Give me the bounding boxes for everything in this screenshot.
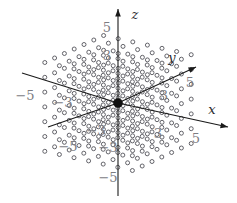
lattice-dot (97, 75, 101, 79)
lattice-dot (121, 133, 125, 137)
lattice-dot (77, 55, 81, 59)
lattice-dot (53, 56, 57, 60)
lattice-dot (62, 52, 66, 56)
lattice-dot (145, 63, 149, 67)
figure-canvas: x35−3−5y35−5−3z53−3−5 (0, 0, 237, 203)
lattice-dot (82, 72, 86, 76)
lattice-dot (170, 136, 174, 140)
lattice-dot (97, 105, 101, 109)
lattice-dot (57, 64, 61, 68)
lattice-dot (87, 115, 91, 119)
lattice-dot (67, 74, 71, 78)
lattice-dot (160, 46, 164, 50)
lattice-dot (87, 95, 91, 99)
lattice-dot (160, 61, 164, 65)
tick-label-y-3: 3 (160, 88, 168, 103)
lattice-dot (150, 71, 154, 75)
lattice-dot (126, 141, 130, 145)
lattice-dot (131, 129, 135, 133)
lattice-dot (102, 78, 106, 82)
lattice-dot (135, 82, 139, 86)
lattice-dot (155, 147, 159, 151)
lattice-dot (170, 106, 174, 110)
lattice-dot (101, 73, 105, 77)
lattice-dot (179, 102, 183, 106)
lattice-dot (82, 136, 86, 140)
lattice-dot (87, 50, 91, 54)
lattice-dot (77, 84, 81, 88)
lattice-dot (72, 126, 76, 130)
lattice-dot (121, 109, 125, 113)
lattice-dot (87, 144, 91, 148)
lattice-dot (155, 103, 159, 107)
lattice-dot (121, 153, 125, 157)
lattice-dot (92, 73, 96, 77)
lattice-dot (111, 49, 115, 53)
lattice-dot (126, 126, 130, 130)
lattice-dot (130, 80, 134, 84)
lattice-dot (111, 69, 115, 73)
tick-label-y-5: 5 (186, 75, 194, 90)
lattice-dot (155, 118, 159, 122)
lattice-dot (43, 90, 47, 94)
lattice-dot (53, 130, 57, 134)
lattice-dot (87, 80, 91, 84)
lattice-dot (77, 70, 81, 74)
lattice-dot (96, 66, 100, 70)
lattice-dot (189, 53, 193, 57)
lattice-dot (175, 109, 179, 113)
lattice-dot (131, 134, 135, 138)
tick-label-z-negative--3: −3 (98, 140, 117, 155)
lattice-dot (145, 93, 149, 97)
lattice-dot (189, 97, 193, 101)
lattice-dot (145, 102, 149, 106)
lattice-dot (87, 100, 91, 104)
lattice-dot (53, 145, 57, 149)
lattice-dot (179, 131, 183, 135)
lattice-dot (82, 87, 86, 91)
lattice-dot (150, 66, 154, 70)
lattice-dot (72, 97, 76, 101)
lattice-dot (72, 47, 76, 51)
lattice-dot (53, 71, 57, 75)
lattice-dot (101, 83, 105, 87)
lattice-dot (150, 51, 154, 55)
lattice-dot (43, 135, 47, 139)
lattice-dot (135, 97, 139, 101)
lattice-dot (82, 62, 86, 66)
lattice-dot (53, 86, 57, 90)
lattice-dot (82, 43, 86, 47)
lattice-dot (72, 111, 76, 115)
lattice-dot (121, 59, 125, 63)
lattice-dot (126, 116, 130, 120)
lattice-dot (140, 129, 144, 133)
lattice-dot (126, 72, 130, 76)
lattice-dot (43, 149, 47, 153)
lattice-dot (87, 139, 91, 143)
lattice-dot (126, 67, 130, 71)
axis-label-y: y (167, 50, 176, 65)
lattice-dot (165, 69, 169, 73)
lattice-dot (145, 117, 149, 121)
lattice-dot (160, 140, 164, 144)
lattice-dot (57, 79, 61, 83)
lattice-dot (67, 89, 71, 93)
lattice-dot (92, 117, 96, 121)
lattice-dot (96, 80, 100, 84)
lattice-dot (140, 55, 144, 59)
lattice-dot (135, 112, 139, 116)
lattice-dot (179, 57, 183, 61)
coordinate-axes-figure: x35−3−5y35−5−3z53−3−5 (0, 0, 237, 203)
lattice-dot (106, 135, 110, 139)
lattice-dot (155, 59, 159, 63)
lattice-dot (175, 79, 179, 83)
lattice-dot (140, 164, 144, 168)
arrowhead-z (115, 9, 121, 17)
lattice-dot (131, 99, 135, 103)
lattice-dot (135, 127, 139, 131)
lattice-dot (140, 85, 144, 89)
lattice-dot (106, 130, 110, 134)
tick-label-x-5: 5 (192, 131, 200, 146)
lattice-dot (102, 63, 106, 67)
lattice-dot (72, 67, 76, 71)
